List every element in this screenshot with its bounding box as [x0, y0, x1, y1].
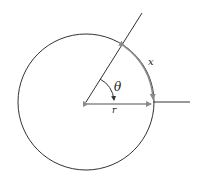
angle-arc-arrow [100, 79, 114, 100]
arc-length-label: x [148, 56, 154, 67]
radius-label: r [112, 105, 117, 115]
angle-label: θ [114, 80, 122, 94]
arc-length-arrow [124, 46, 153, 99]
circle-arc-diagram: x θ r [0, 0, 201, 183]
